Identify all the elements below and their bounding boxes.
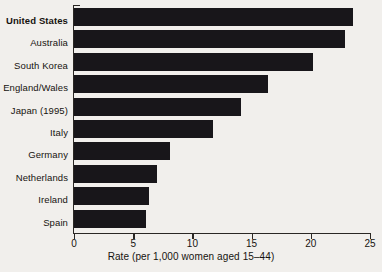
- y-axis-line: [73, 5, 74, 234]
- bar-japan-1995: [74, 98, 241, 116]
- x-tick-label-15: 15: [246, 238, 257, 249]
- y-axis-cap-tick: [73, 5, 80, 6]
- bar-netherlands: [74, 165, 157, 183]
- bar-united-states: [74, 8, 353, 26]
- bar-australia: [74, 30, 345, 48]
- bar-england-wales: [74, 75, 268, 93]
- category-label-england-wales: England/Wales: [0, 82, 68, 93]
- category-label-south-korea: South Korea: [0, 60, 68, 71]
- bar-chart: United StatesAustraliaSouth KoreaEngland…: [0, 0, 382, 272]
- bar-ireland: [74, 187, 149, 205]
- category-label-netherlands: Netherlands: [0, 172, 68, 183]
- bar-italy: [74, 120, 213, 138]
- category-axis-labels: United StatesAustraliaSouth KoreaEngland…: [0, 8, 68, 232]
- bar-south-korea: [74, 53, 313, 71]
- x-axis-line: [73, 233, 371, 234]
- category-label-australia: Australia: [0, 37, 68, 48]
- category-label-italy: Italy: [0, 127, 68, 138]
- x-tick-label-20: 20: [305, 238, 316, 249]
- category-label-united-states: United States: [0, 15, 68, 26]
- bar-spain: [74, 210, 146, 228]
- bar-germany: [74, 142, 170, 160]
- category-label-spain: Spain: [0, 217, 68, 228]
- plot-area: [74, 5, 378, 234]
- x-tick-label-5: 5: [130, 238, 136, 249]
- x-tick-label-10: 10: [187, 238, 198, 249]
- x-axis-title: Rate (per 1,000 women aged 15–44): [0, 251, 382, 262]
- category-label-ireland: Ireland: [0, 194, 68, 205]
- x-tick-label-25: 25: [364, 238, 375, 249]
- category-label-germany: Germany: [0, 149, 68, 160]
- category-label-japan-1995: Japan (1995): [0, 105, 68, 116]
- x-tick-label-0: 0: [71, 238, 77, 249]
